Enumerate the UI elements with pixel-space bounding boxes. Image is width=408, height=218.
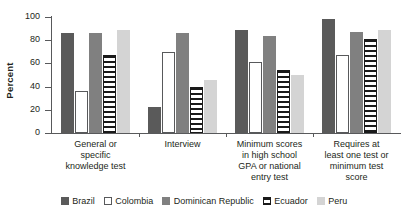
bar: [61, 33, 74, 133]
bar: [336, 55, 349, 133]
legend-item[interactable]: Ecuador: [263, 196, 308, 206]
y-tick-label: 40: [18, 82, 40, 91]
bar: [204, 80, 217, 133]
category-label-line: least one test or: [313, 150, 400, 161]
legend-label: Colombia: [115, 196, 153, 206]
category-label-line: specific: [52, 150, 139, 161]
group-separator: [226, 133, 227, 137]
bar-group: [139, 17, 226, 133]
legend-swatch-icon: [317, 197, 325, 205]
category-label-line: GPA or national: [226, 161, 313, 172]
y-tick-label: 20: [18, 105, 40, 114]
legend-swatch-icon: [162, 197, 170, 205]
category-label-line: Minimum scores: [226, 139, 313, 150]
bar: [117, 30, 130, 133]
bar-chart: Percent 020406080100 General orspecifick…: [0, 0, 408, 218]
legend-label: Dominican Republic: [174, 196, 254, 206]
y-tick-mark: [45, 17, 51, 18]
bar: [322, 19, 335, 133]
legend-label: Ecuador: [274, 196, 308, 206]
bar: [263, 36, 276, 133]
bar: [162, 52, 175, 133]
y-tick-mark: [45, 110, 51, 111]
y-tick-label: 80: [18, 35, 40, 44]
y-tick-mark: [45, 87, 51, 88]
y-tick-mark: [45, 133, 51, 134]
legend-item[interactable]: Colombia: [104, 196, 154, 206]
group-separator: [313, 133, 314, 137]
legend-item[interactable]: Dominican Republic: [162, 196, 254, 206]
category-label-line: minimum test: [313, 161, 400, 172]
category-label-line: Requires at: [313, 139, 400, 150]
legend-swatch-icon: [263, 197, 271, 205]
y-axis-title: Percent: [2, 40, 16, 120]
bar: [176, 33, 189, 133]
category-label-line: in high school: [226, 150, 313, 161]
bar: [350, 32, 363, 133]
bar: [364, 39, 377, 133]
bar-group: [226, 17, 313, 133]
y-tick-mark: [45, 40, 51, 41]
plot-area: [52, 17, 400, 133]
bar: [249, 62, 262, 133]
category-label-line: General or: [52, 139, 139, 150]
bar: [378, 30, 391, 133]
category-label: Minimum scoresin high schoolGPA or natio…: [226, 139, 313, 183]
legend-swatch-icon: [104, 197, 112, 205]
bar: [190, 87, 203, 133]
category-label: Interview: [139, 139, 226, 150]
bar: [235, 30, 248, 133]
legend-item[interactable]: Brazil: [61, 196, 95, 206]
bar: [291, 75, 304, 133]
category-label-line: score: [313, 172, 400, 183]
bar: [89, 33, 102, 133]
legend-label: Brazil: [72, 196, 95, 206]
category-label: General orspecificknowledge test: [52, 139, 139, 172]
bar: [277, 70, 290, 133]
category-label-line: entry test: [226, 172, 313, 183]
bar: [103, 55, 116, 133]
category-label-line: knowledge test: [52, 161, 139, 172]
y-tick-label: 60: [18, 58, 40, 67]
bar: [148, 107, 161, 133]
group-separator: [139, 133, 140, 137]
y-tick-label: 100: [18, 12, 40, 21]
y-tick-mark: [45, 63, 51, 64]
legend-swatch-icon: [61, 197, 69, 205]
legend-item[interactable]: Peru: [317, 196, 348, 206]
bar: [75, 91, 88, 133]
chart-legend: BrazilColombiaDominican RepublicEcuadorP…: [0, 196, 408, 206]
bar-group: [313, 17, 400, 133]
bar-group: [52, 17, 139, 133]
category-label: Requires atleast one test orminimum test…: [313, 139, 400, 183]
category-label-line: Interview: [139, 139, 226, 150]
legend-label: Peru: [328, 196, 347, 206]
y-tick-label: 0: [18, 128, 40, 137]
